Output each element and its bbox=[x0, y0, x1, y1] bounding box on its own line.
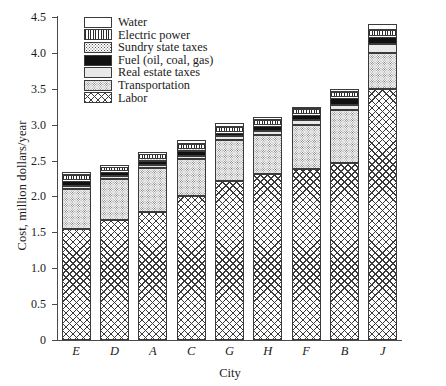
bar-a[interactable] bbox=[138, 152, 167, 340]
legend-swatch-water bbox=[84, 17, 112, 28]
y-tick-mark bbox=[52, 161, 57, 162]
pattern-labor bbox=[369, 90, 396, 339]
pattern-labor bbox=[101, 221, 128, 339]
y-tick-label: 2.0 bbox=[18, 191, 46, 201]
bar-f[interactable] bbox=[292, 107, 321, 340]
pattern-labor bbox=[85, 93, 111, 102]
bar-segment-electric bbox=[62, 175, 91, 180]
bar-j[interactable] bbox=[368, 24, 397, 340]
bar-segment-electric bbox=[253, 120, 282, 125]
legend-swatch-sundry bbox=[84, 42, 112, 53]
bar-d[interactable] bbox=[100, 166, 129, 340]
pattern-transport bbox=[101, 180, 128, 220]
bar-segment-fuel bbox=[138, 161, 167, 165]
bar-segment-labor bbox=[292, 169, 321, 340]
pattern-electric bbox=[254, 121, 281, 124]
bar-segment-realestate bbox=[253, 131, 282, 135]
bar-segment-electric bbox=[177, 144, 206, 149]
bar-segment-water bbox=[177, 140, 206, 144]
pattern-water bbox=[63, 173, 90, 174]
pattern-electric bbox=[139, 155, 166, 158]
pattern-realestate bbox=[331, 106, 358, 108]
pattern-water bbox=[178, 141, 205, 143]
pattern-transport bbox=[331, 111, 358, 162]
y-tick-mark bbox=[52, 232, 57, 233]
pattern-labor bbox=[63, 230, 90, 339]
bar-segment-fuel bbox=[330, 98, 359, 105]
bar-segment-labor bbox=[100, 220, 129, 340]
x-tick-label-a: A bbox=[133, 344, 173, 359]
pattern-electric bbox=[178, 145, 205, 148]
bar-segment-electric bbox=[138, 154, 167, 159]
pattern-labor bbox=[331, 164, 358, 339]
bar-segment-fuel bbox=[215, 133, 244, 136]
pattern-fuel bbox=[331, 99, 358, 104]
pattern-realestate bbox=[85, 68, 111, 77]
pattern-electric bbox=[101, 168, 128, 170]
pattern-transport bbox=[293, 126, 320, 169]
bar-segment-electric bbox=[215, 127, 244, 132]
legend-item: Water bbox=[84, 16, 213, 29]
bar-segment-realestate bbox=[177, 156, 206, 160]
bar-segment-fuel bbox=[253, 126, 282, 131]
pattern-realestate bbox=[216, 137, 243, 139]
legend-label: Transportation bbox=[118, 79, 190, 92]
bar-segment-water bbox=[253, 117, 282, 119]
pattern-electric bbox=[331, 93, 358, 96]
bar-segment-realestate bbox=[62, 186, 91, 189]
y-axis-line bbox=[57, 16, 58, 341]
bar-segment-realestate bbox=[292, 120, 321, 124]
bar-segment-electric bbox=[292, 109, 321, 114]
bar-segment-electric bbox=[330, 92, 359, 97]
y-tick-mark bbox=[52, 17, 57, 18]
bar-segment-realestate bbox=[368, 44, 397, 53]
legend-label: Labor bbox=[118, 92, 147, 105]
bar-segment-labor bbox=[330, 163, 359, 340]
y-axis-ticks: 00.51.01.52.02.53.03.54.04.5 bbox=[14, 0, 46, 386]
y-tick-label: 4.5 bbox=[18, 12, 46, 22]
bar-segment-transport bbox=[330, 110, 359, 163]
bar-segment-labor bbox=[215, 181, 244, 340]
pattern-fuel bbox=[178, 152, 205, 155]
bar-c[interactable] bbox=[177, 140, 206, 340]
pattern-water bbox=[331, 90, 358, 91]
x-tick-label-g: G bbox=[210, 344, 250, 359]
bar-b[interactable] bbox=[330, 89, 359, 340]
y-tick-mark bbox=[52, 196, 57, 197]
x-tick-label-f: F bbox=[286, 344, 326, 359]
pattern-realestate bbox=[369, 45, 396, 52]
bar-segment-water bbox=[215, 123, 244, 127]
legend-swatch-electric bbox=[84, 29, 112, 40]
legend-swatch-transport bbox=[84, 80, 112, 91]
y-tick-label: 2.5 bbox=[18, 156, 46, 166]
stacked-bar-chart: Cost, million dollars/year City 00.51.01… bbox=[0, 0, 446, 386]
legend-swatch-fuel bbox=[84, 55, 112, 66]
bar-segment-labor bbox=[62, 229, 91, 340]
x-tick-label-h: H bbox=[248, 344, 288, 359]
bar-h[interactable] bbox=[253, 118, 282, 341]
legend-item: Transportation bbox=[84, 79, 213, 92]
legend-swatch-labor bbox=[84, 92, 112, 103]
y-tick-mark bbox=[52, 89, 57, 90]
pattern-fuel bbox=[85, 56, 111, 65]
pattern-transport bbox=[369, 54, 396, 88]
bar-e[interactable] bbox=[62, 172, 91, 340]
pattern-transport bbox=[254, 136, 281, 173]
y-tick-mark bbox=[52, 268, 57, 269]
x-axis-line bbox=[57, 340, 402, 341]
bar-segment-labor bbox=[138, 212, 167, 340]
y-tick-label: 4.0 bbox=[18, 48, 46, 58]
chart-legend: WaterElectric powerSundry state taxesFue… bbox=[84, 16, 213, 104]
bar-segment-transport bbox=[138, 168, 167, 211]
bar-segment-transport bbox=[100, 179, 129, 221]
bar-segment-labor bbox=[177, 196, 206, 340]
pattern-realestate bbox=[293, 121, 320, 123]
y-tick-mark bbox=[52, 53, 57, 54]
pattern-labor bbox=[254, 175, 281, 339]
bar-segment-water bbox=[368, 24, 397, 30]
pattern-water bbox=[216, 124, 243, 126]
bar-segment-realestate bbox=[330, 105, 359, 109]
pattern-fuel bbox=[369, 38, 396, 43]
x-tick-label-c: C bbox=[171, 344, 211, 359]
bar-g[interactable] bbox=[215, 123, 244, 340]
